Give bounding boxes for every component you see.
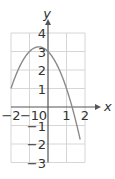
- parabola-chart: −2−10124321−1−2−3xy: [0, 0, 115, 179]
- y-tick-label: 3: [38, 45, 46, 60]
- y-tick-label: −1: [27, 119, 46, 134]
- y-tick-label: 1: [38, 82, 46, 97]
- y-tick-label: −2: [27, 137, 46, 152]
- x-axis-label: x: [103, 99, 112, 114]
- x-axis-arrow-icon: [95, 104, 101, 110]
- x-tick-label: 2: [81, 108, 89, 123]
- axes: [11, 19, 101, 163]
- x-tick-label: 1: [62, 108, 70, 123]
- y-tick-label: 4: [38, 26, 46, 41]
- y-axis-label: y: [42, 6, 51, 21]
- y-tick-label: −3: [27, 156, 46, 171]
- x-tick-label: −2: [1, 108, 20, 123]
- y-tick-label: 2: [38, 63, 46, 78]
